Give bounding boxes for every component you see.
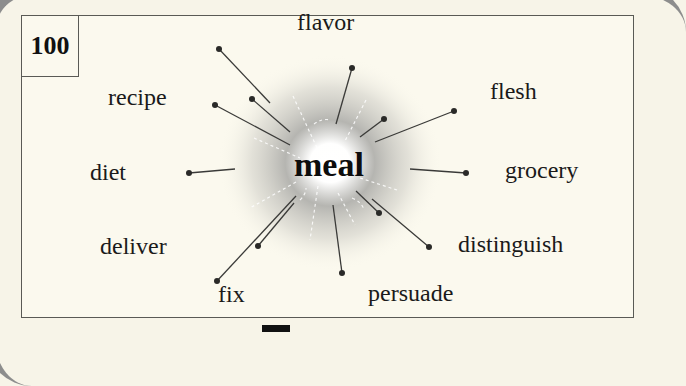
center-word: meal xyxy=(294,148,364,182)
word-label-recipe: recipe xyxy=(108,85,167,109)
word-label-grocery: grocery xyxy=(505,158,578,182)
word-label-flavor: flavor xyxy=(297,10,354,34)
ray-dot xyxy=(255,243,261,249)
ray-dot xyxy=(349,65,355,71)
ray-dot xyxy=(463,170,469,176)
word-label-distinguish: distinguish xyxy=(458,232,563,256)
word-label-deliver: deliver xyxy=(100,234,167,258)
ray-dot xyxy=(339,270,345,276)
word-label-diet: diet xyxy=(90,160,126,184)
ray-dot xyxy=(426,244,432,250)
ray-dot xyxy=(249,96,255,102)
word-label-fix: fix xyxy=(218,282,245,306)
ray-dot xyxy=(186,170,192,176)
ray-dot xyxy=(381,116,387,122)
word-label-persuade: persuade xyxy=(368,281,453,305)
word-label-flesh: flesh xyxy=(490,79,537,103)
card-number: 100 xyxy=(21,15,79,77)
ray-dot xyxy=(376,210,382,216)
ray-dot xyxy=(212,102,218,108)
ray-dot xyxy=(451,108,457,114)
ray-dot xyxy=(216,46,222,52)
